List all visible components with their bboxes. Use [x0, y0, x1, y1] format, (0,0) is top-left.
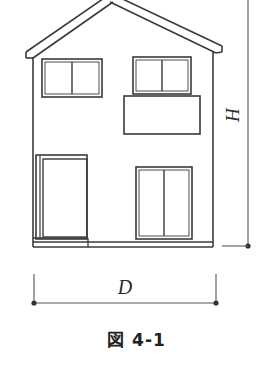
roof-right-outer-edge [112, 0, 222, 46]
upper-right-window [133, 57, 191, 94]
figure-caption: 図 4-1 [0, 326, 273, 351]
height-dimension-label: H [213, 104, 253, 126]
gable-roof [26, 0, 222, 58]
figure-container: H D 図 4-1 [0, 0, 273, 383]
upper-left-window [42, 59, 102, 97]
width-dimension-end-dot-right [213, 300, 218, 305]
width-dimension-label: D [108, 274, 142, 300]
entrance-door [36, 155, 87, 239]
roof-right-inner-edge [110, 2, 216, 53]
roof-left-inner-edge [33, 2, 113, 58]
balcony [124, 96, 200, 134]
balcony-rail-panel [124, 96, 200, 134]
entrance-door-panel [43, 159, 87, 237]
front-wall [33, 52, 213, 247]
roof-left-outer-edge [26, 0, 110, 52]
roof-right-eave-soffit [216, 52, 222, 53]
width-dimension-end-dot-left [31, 300, 36, 305]
lower-right-window [136, 167, 192, 239]
